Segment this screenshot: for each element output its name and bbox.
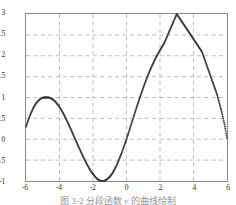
y-axis-tick-label: -0.5 bbox=[0, 157, 5, 165]
y-axis-tick-label: 3 bbox=[1, 9, 5, 17]
x-axis-tick-label: 2 bbox=[159, 184, 163, 192]
figure-container: -1-0.500.511.522.53 -6-4-20246 图 3-2 分段函… bbox=[0, 0, 236, 205]
x-axis-tick-label: 0 bbox=[125, 184, 129, 192]
plot-area bbox=[25, 13, 228, 182]
y-axis-tick-label: 2 bbox=[1, 51, 5, 59]
x-axis-tick-label: -2 bbox=[90, 184, 96, 192]
y-axis-tick-label: 2.5 bbox=[0, 30, 5, 38]
y-axis-tick-label: 1 bbox=[1, 94, 5, 102]
x-axis-tick-label: 4 bbox=[192, 184, 196, 192]
y-axis-tick-label: 1.5 bbox=[0, 72, 5, 80]
x-axis-tick-label: 6 bbox=[226, 184, 230, 192]
y-axis-tick-label: -1 bbox=[0, 178, 5, 186]
x-axis-tick-label: -6 bbox=[22, 184, 28, 192]
y-axis-tick-label: 0 bbox=[1, 136, 5, 144]
data-series-markers bbox=[26, 14, 227, 181]
y-axis-tick-label: 0.5 bbox=[0, 115, 5, 123]
figure-caption: 图 3-2 分段函数 y 的曲线绘制 bbox=[0, 196, 236, 205]
x-axis-tick-label: -4 bbox=[56, 184, 62, 192]
